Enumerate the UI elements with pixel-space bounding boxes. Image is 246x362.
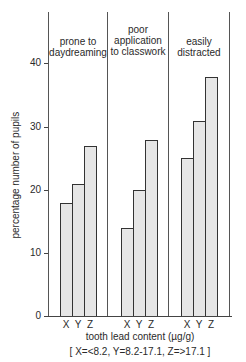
group-label-poor-application: poor application to classwork bbox=[108, 24, 168, 57]
y-tick-label-40: 40 bbox=[21, 58, 41, 68]
group-label-line: poor bbox=[108, 24, 168, 35]
x-category-label: X bbox=[121, 320, 133, 330]
group-label-daydreaming: prone to daydreaming bbox=[49, 36, 107, 58]
x-category-label: X bbox=[181, 320, 193, 330]
y-axis-label: percentage number of pupils bbox=[10, 113, 21, 239]
bar-z bbox=[145, 140, 158, 316]
y-tick-0 bbox=[44, 316, 48, 317]
y-tick-label-30: 30 bbox=[21, 122, 41, 132]
y-tick-20 bbox=[44, 190, 48, 191]
y-tick-label-0: 0 bbox=[21, 311, 41, 321]
x-category-label: Z bbox=[145, 320, 157, 330]
group-label-line: application bbox=[108, 35, 168, 46]
x-axis-label: tooth lead content (µg/g) bbox=[48, 331, 232, 342]
x-category-label: Y bbox=[133, 320, 145, 330]
group-divider-1 bbox=[107, 12, 108, 316]
x-category-label: Z bbox=[84, 320, 96, 330]
x-axis-line bbox=[46, 316, 232, 317]
x-category-label: Y bbox=[193, 320, 205, 330]
x-axis-note: [ X=<8.2, Y=8.2-17.1, Z=>17.1 ] bbox=[40, 346, 240, 357]
group-label-line: easily bbox=[169, 36, 229, 47]
y-tick-40 bbox=[44, 63, 48, 64]
group-label-line: distracted bbox=[169, 47, 229, 58]
x-category-label: Y bbox=[72, 320, 84, 330]
group-label-line: prone to bbox=[49, 36, 107, 47]
group-label-easily-distracted: easily distracted bbox=[169, 36, 229, 58]
y-tick-30 bbox=[44, 127, 48, 128]
x-category-label: Z bbox=[205, 320, 217, 330]
y-tick-label-20: 20 bbox=[21, 185, 41, 195]
y-tick-10 bbox=[44, 253, 48, 254]
bar-z bbox=[84, 146, 97, 316]
bar-z bbox=[205, 77, 218, 316]
x-category-label: X bbox=[60, 320, 72, 330]
y-tick-label-10: 10 bbox=[21, 248, 41, 258]
group-label-line: daydreaming bbox=[49, 47, 107, 58]
group-divider-3 bbox=[229, 12, 230, 316]
group-label-line: to classwork bbox=[108, 46, 168, 57]
